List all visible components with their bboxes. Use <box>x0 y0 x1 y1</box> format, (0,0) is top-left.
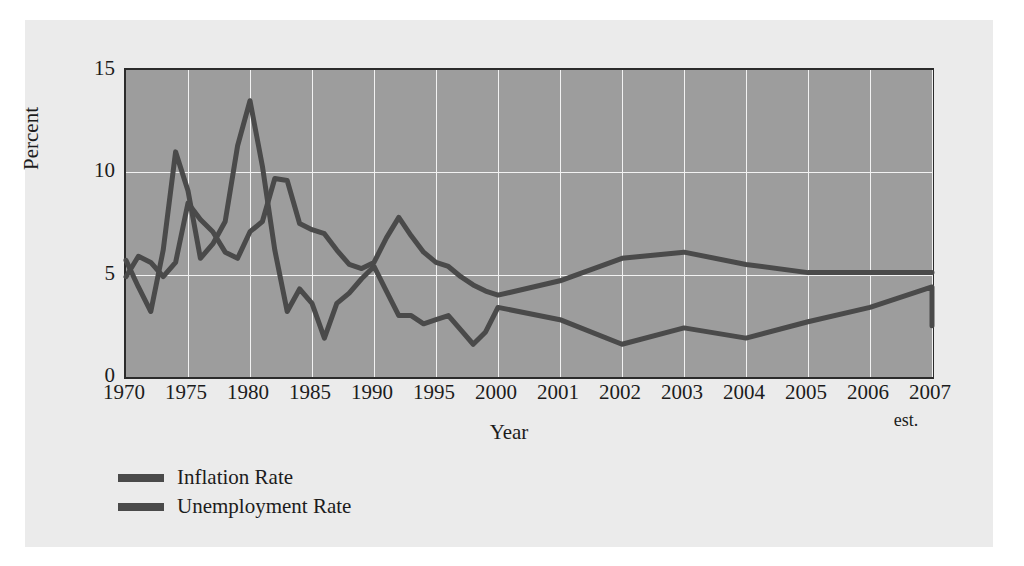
legend-swatch-inflation <box>118 474 164 482</box>
x-tick-2004: 2004 <box>723 380 765 405</box>
series-line-inflation-rate <box>126 101 932 345</box>
plot-area <box>124 68 934 379</box>
x-tick-2006: 2006 <box>847 380 889 405</box>
y-tick-5: 5 <box>105 260 116 285</box>
x-tick-1985: 1985 <box>289 380 331 405</box>
x-tick-1980: 1980 <box>227 380 269 405</box>
chart-legend: Inflation Rate Unemployment Rate <box>118 463 351 521</box>
x-axis-ticks: 1970197519801985199019952000200120022003… <box>124 380 930 410</box>
y-tick-10: 10 <box>94 158 115 183</box>
x-tick-1995: 1995 <box>413 380 455 405</box>
series-lines <box>126 70 932 377</box>
legend-label-inflation: Inflation Rate <box>177 467 293 488</box>
x-tick-2003: 2003 <box>661 380 703 405</box>
x-tick-1970: 1970 <box>103 380 145 405</box>
series-line-unemployment-rate <box>126 178 932 295</box>
x-axis-label: Year <box>25 420 993 445</box>
chart-figure: 15 10 5 0 Percent 1970197519801985199019… <box>25 20 993 547</box>
x-tick-2002: 2002 <box>599 380 641 405</box>
y-tick-15: 15 <box>94 56 115 81</box>
x-tick-2005: 2005 <box>785 380 827 405</box>
x-tick-1990: 1990 <box>351 380 393 405</box>
y-axis-ticks: 15 10 5 0 <box>77 68 115 375</box>
x-tick-2001: 2001 <box>537 380 579 405</box>
legend-item-inflation: Inflation Rate <box>118 463 351 492</box>
y-axis-label: Percent <box>19 107 44 170</box>
legend-swatch-unemployment <box>118 503 164 511</box>
gridline-vertical <box>932 70 933 377</box>
x-tick-1975: 1975 <box>165 380 207 405</box>
x-tick-2000: 2000 <box>475 380 517 405</box>
legend-label-unemployment: Unemployment Rate <box>177 496 351 517</box>
x-tick-2007: 2007 <box>909 380 951 405</box>
legend-item-unemployment: Unemployment Rate <box>118 492 351 521</box>
